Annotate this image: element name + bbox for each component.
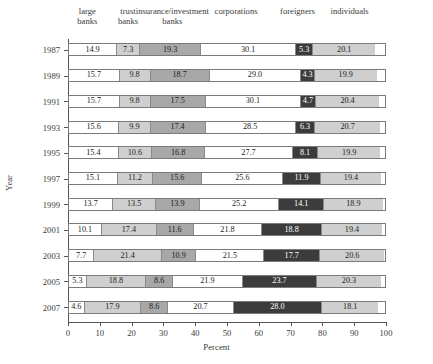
x-axis-tick-label: 40 <box>180 328 210 338</box>
series-label-individuals: individuals <box>290 6 410 16</box>
bar-segment-value: 20.7 <box>193 303 207 311</box>
x-axis-tick <box>386 322 387 326</box>
stacked-bar: 15.111.215.625.611.919.4 <box>68 172 386 185</box>
bar-segment: 30.1 <box>205 96 300 107</box>
bar-segment: 15.6 <box>152 173 201 184</box>
stacked-bar: 15.69.917.428.56.320.7 <box>68 121 386 134</box>
bar-segment-value: 25.2 <box>232 200 246 208</box>
x-axis-tick-label: 80 <box>307 328 337 338</box>
bar-segment: 20.7 <box>167 302 232 313</box>
bar-segment: 18.8 <box>86 276 145 287</box>
bar-segment: 13.5 <box>112 199 155 210</box>
bar-segment: 18.1 <box>321 302 378 313</box>
bar-segment: 20.3 <box>316 276 380 287</box>
bar-segment: 30.1 <box>200 44 295 55</box>
bar-segment: 27.7 <box>204 147 292 158</box>
bar-segment: 18.7 <box>150 70 209 81</box>
y-axis-tick-label: 2003 <box>20 251 60 261</box>
bar-row: 199515.410.616.827.78.119.9 <box>68 146 386 159</box>
y-axis-tick-label: 1991 <box>20 97 60 107</box>
bar-segment-value: 10.6 <box>128 149 142 157</box>
bar-segment: 11.9 <box>282 173 320 184</box>
bar-segment: 15.6 <box>69 122 118 133</box>
bar-segment-value: 18.8 <box>109 277 123 285</box>
bar-segment-value: 13.5 <box>127 200 141 208</box>
bar-segment: 17.4 <box>150 122 205 133</box>
y-axis-tick-label: 1993 <box>20 123 60 133</box>
bar-segment: 20.6 <box>319 250 384 261</box>
bar-segment: 20.7 <box>314 122 379 133</box>
bar-segment-value: 9.8 <box>129 97 139 105</box>
bar-segment: 9.8 <box>119 70 150 81</box>
x-axis-tick <box>291 322 292 326</box>
x-axis-title: Percent <box>0 342 433 352</box>
bar-segment: 18.9 <box>323 199 383 210</box>
bar-segment: 19.9 <box>314 70 377 81</box>
bar-segment: 21.4 <box>93 250 161 261</box>
stacked-bar: 7.721.410.921.517.720.6 <box>68 249 386 262</box>
stacked-bar: 15.79.818.729.04.319.9 <box>68 69 386 82</box>
bar-segment: 21.9 <box>172 276 241 287</box>
bar-segment-value: 23.7 <box>272 277 286 285</box>
bar-segment: 19.3 <box>139 44 200 55</box>
bar-segment-value: 19.9 <box>342 149 356 157</box>
bar-segment: 28.5 <box>205 122 295 133</box>
bar-segment: 29.0 <box>209 70 301 81</box>
x-axis-tick <box>259 322 260 326</box>
bar-segment-value: 19.4 <box>345 226 359 234</box>
y-axis-title: Year <box>4 163 14 203</box>
bar-segment-value: 8.6 <box>149 303 159 311</box>
bar-segment: 19.9 <box>317 147 380 158</box>
bar-row: 199715.111.215.625.611.919.4 <box>68 172 386 185</box>
stacked-bar: 4.617.98.620.728.018.1 <box>68 301 386 314</box>
x-axis-tick <box>100 322 101 326</box>
bar-segment-value: 17.4 <box>170 123 184 131</box>
bar-segment-value: 28.0 <box>270 303 284 311</box>
bar-segment-value: 18.1 <box>343 303 357 311</box>
bar-segment: 15.7 <box>69 70 119 81</box>
bar-segment-value: 18.9 <box>346 200 360 208</box>
y-axis-tick-label: 1989 <box>20 71 60 81</box>
bar-segment-value: 7.7 <box>76 252 86 260</box>
stacked-bar: 10.117.411.621.818.819.4 <box>68 223 386 236</box>
bar-segment-value: 4.6 <box>71 303 81 311</box>
bar-segment: 14.9 <box>69 44 116 55</box>
bar-segment: 6.3 <box>295 122 315 133</box>
y-axis-tick-label: 2001 <box>20 225 60 235</box>
x-axis-tick-label: 10 <box>85 328 115 338</box>
bar-segment-value: 17.4 <box>122 226 136 234</box>
x-axis-tick <box>195 322 196 326</box>
bar-segment-value: 21.9 <box>200 277 214 285</box>
x-axis-tick-label: 50 <box>212 328 242 338</box>
bar-row: 199115.79.817.530.14.720.4 <box>68 95 386 108</box>
x-axis-tick <box>68 322 69 326</box>
bar-row: 198915.79.818.729.04.319.9 <box>68 69 386 82</box>
bar-segment-value: 29.0 <box>248 71 262 79</box>
x-axis-tick <box>354 322 355 326</box>
bar-segment: 4.7 <box>300 96 315 107</box>
bar-segment-value: 10.1 <box>78 226 92 234</box>
bar-segment-value: 25.6 <box>235 174 249 182</box>
bar-segment: 9.9 <box>118 122 149 133</box>
bar-segment-value: 10.9 <box>171 252 185 260</box>
bar-segment: 8.6 <box>140 302 167 313</box>
stacked-bar: 15.410.616.827.78.119.9 <box>68 146 386 159</box>
bar-row: 198714.97.319.330.15.320.1 <box>68 43 386 56</box>
y-axis-tick-label: 2005 <box>20 277 60 287</box>
y-axis-tick-label: 2007 <box>20 303 60 313</box>
bar-segment: 10.9 <box>161 250 195 261</box>
bar-segment-value: 15.6 <box>170 174 184 182</box>
bar-segment: 9.8 <box>119 96 150 107</box>
bar-segment: 25.6 <box>201 173 282 184</box>
bar-segment-value: 18.7 <box>172 71 186 79</box>
bar-segment: 19.4 <box>320 173 381 184</box>
bar-segment-value: 7.3 <box>123 46 133 54</box>
bar-segment: 20.1 <box>312 44 376 55</box>
bar-segment: 17.4 <box>101 224 156 235</box>
bar-segment: 28.0 <box>233 302 321 313</box>
bar-segment-value: 15.7 <box>87 97 101 105</box>
bar-segment-value: 19.4 <box>344 174 358 182</box>
bar-segment-value: 21.8 <box>220 226 234 234</box>
bar-segment-value: 4.3 <box>302 71 312 79</box>
bar-segment: 5.3 <box>69 276 86 287</box>
